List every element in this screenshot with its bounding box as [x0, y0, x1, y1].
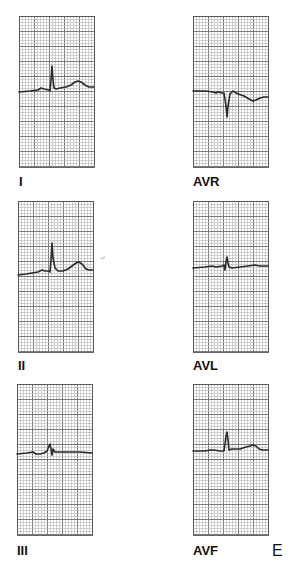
- lead-label-i: I: [19, 175, 23, 188]
- lead-label-ii: II: [18, 359, 25, 372]
- stray-mark: [101, 257, 105, 259]
- lead-panel-i: [19, 16, 95, 168]
- ecg-panels: [17, 16, 269, 536]
- lead-panel-avr: [193, 16, 269, 168]
- lead-label-avl: AVL: [193, 359, 218, 372]
- lead-panel-avl: [193, 201, 269, 353]
- lead-panel-avf: [193, 384, 269, 536]
- lead-label-avr: AVR: [193, 175, 219, 188]
- lead-panel-iii: [17, 384, 93, 536]
- lead-label-iii: III: [17, 544, 28, 557]
- lead-panel-ii: [18, 201, 94, 353]
- lead-label-avf: AVF: [193, 544, 218, 557]
- figure-letter: E: [272, 543, 283, 559]
- ecg-figure: [0, 0, 288, 562]
